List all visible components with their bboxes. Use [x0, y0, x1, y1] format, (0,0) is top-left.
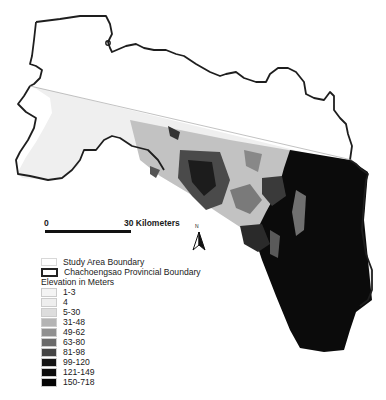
- elevation-swatch: [41, 298, 57, 307]
- elevation-class: 150-718: [41, 377, 201, 387]
- elevation-swatch: [41, 308, 57, 317]
- elevation-class: 49-62: [41, 327, 201, 337]
- scale-start-label: 0: [44, 218, 49, 228]
- scale-line: [45, 230, 131, 233]
- legend-provincial-boundary: Chachoengsao Provincial Boundary: [41, 267, 201, 277]
- legend-study-area: Study Area Boundary: [41, 257, 201, 267]
- elevation-swatch: [41, 348, 57, 357]
- north-label: N: [195, 223, 199, 229]
- elevation-label: 1-3: [63, 287, 75, 297]
- elevation-class: 4: [41, 297, 201, 307]
- elevation-class-list: 1-3 4 5-30 31-48 49-62 63-80 81-98 99-12…: [41, 287, 201, 387]
- elevation-class: 63-80: [41, 337, 201, 347]
- elevation-class: 99-120: [41, 357, 201, 367]
- legend-label: Chachoengsao Provincial Boundary: [64, 267, 201, 277]
- elevation-swatch: [41, 338, 57, 347]
- elevation-swatch: [41, 318, 57, 327]
- provincial-boundary-swatch: [41, 268, 58, 277]
- study-area-swatch: [41, 258, 57, 266]
- elevation-label: 49-62: [63, 327, 85, 337]
- legend-elevation-title: Elevation in Meters: [41, 277, 201, 287]
- elevation-label: 4: [63, 297, 68, 307]
- elevation-class: 81-98: [41, 347, 201, 357]
- elevation-swatch: [41, 378, 57, 387]
- legend-label: Study Area Boundary: [63, 257, 144, 267]
- north-arrow-icon: [191, 230, 207, 254]
- elevation-label: 63-80: [63, 337, 85, 347]
- elevation-swatch: [41, 358, 57, 367]
- legend: Study Area Boundary Chachoengsao Provinc…: [41, 257, 201, 387]
- elevation-label: 31-48: [63, 317, 85, 327]
- elevation-swatch: [41, 328, 57, 337]
- elevation-swatch: [41, 288, 57, 297]
- elevation-class: 1-3: [41, 287, 201, 297]
- elevation-label: 5-30: [63, 307, 80, 317]
- elevation-label: 121-149: [63, 367, 95, 377]
- scale-bar: 0 30 Kilometers: [44, 218, 194, 238]
- elevation-label: 99-120: [63, 357, 90, 367]
- elevation-class: 121-149: [41, 367, 201, 377]
- elevation-label: 150-718: [63, 377, 95, 387]
- elevation-swatch: [41, 368, 57, 377]
- elevation-class: 5-30: [41, 307, 201, 317]
- scale-end-label: 30 Kilometers: [124, 218, 180, 228]
- elevation-class: 31-48: [41, 317, 201, 327]
- elevation-label: 81-98: [63, 347, 85, 357]
- north-arrow: N: [191, 226, 207, 254]
